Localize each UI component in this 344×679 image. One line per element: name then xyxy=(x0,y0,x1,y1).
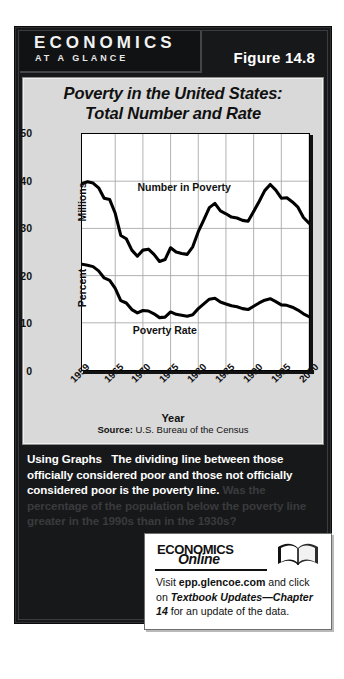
online-divider xyxy=(155,569,267,571)
series-label-number-in-poverty: Number in Poverty xyxy=(138,181,231,193)
figure-header: ECONOMICS AT A GLANCE Figure 14.8 xyxy=(15,27,331,79)
economics-online-text: Visit epp.glencoe.com and click on Textb… xyxy=(156,575,322,619)
economics-online-header: ECONOMICS Online xyxy=(145,538,331,570)
online-text-after: for an update of the data. xyxy=(168,605,289,617)
series-label-poverty-rate: Poverty Rate xyxy=(133,324,197,336)
y-tick-40: 40 xyxy=(6,175,32,187)
y-tick-0: 0 xyxy=(6,365,32,377)
brand-at-a-glance: AT A GLANCE xyxy=(35,53,128,64)
y-tick-50: 50 xyxy=(6,127,32,139)
y-axis-label-millions: Millions xyxy=(76,167,88,237)
figure-caption: Using Graphs The dividing line between t… xyxy=(27,451,313,529)
caption-lead: Using Graphs xyxy=(27,452,102,465)
source-text: U.S. Bureau of the Census xyxy=(136,424,249,435)
x-axis-title: Year xyxy=(23,412,323,424)
y-tick-30: 30 xyxy=(6,222,32,234)
source-prefix: Source: xyxy=(97,424,132,435)
chart-card: Poverty in the United States: Total Numb… xyxy=(22,77,324,445)
open-book-icon xyxy=(275,540,321,570)
figure-page: ECONOMICS AT A GLANCE Figure 14.8 Povert… xyxy=(0,0,344,679)
economics-at-a-glance-tab: ECONOMICS AT A GLANCE xyxy=(20,31,202,73)
online-link[interactable]: epp.glencoe.com xyxy=(179,576,266,588)
online-brand-online: Online xyxy=(178,551,220,567)
y-axis-label-percent: Percent xyxy=(76,253,88,323)
online-text-before: Visit xyxy=(156,576,179,588)
y-tick-10: 10 xyxy=(6,317,32,329)
chart-source: Source: U.S. Bureau of the Census xyxy=(23,424,323,435)
figure-number-label: Figure 14.8 xyxy=(234,49,315,66)
brand-economics: ECONOMICS xyxy=(34,34,176,52)
plot-container: 01020304050 Millions Percent 19591965197… xyxy=(23,78,323,444)
y-tick-20: 20 xyxy=(6,270,32,282)
economics-online-box[interactable]: ECONOMICS Online Visit epp.glencoe.com a… xyxy=(144,533,332,630)
